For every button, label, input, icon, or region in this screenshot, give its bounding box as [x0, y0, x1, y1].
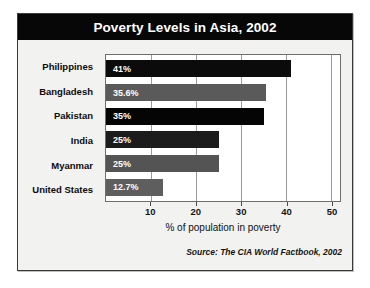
plot-area: 41%35.6%35%25%25%12.7% [105, 54, 341, 202]
bar-row: 12.7% [106, 175, 340, 199]
chart-card: Poverty Levels in Asia, 2002 Philippines… [17, 13, 353, 271]
category-label: Bangladesh [18, 79, 99, 104]
bar: 35% [106, 108, 264, 125]
bar: 25% [106, 155, 219, 172]
x-tick-label: 20 [190, 206, 201, 217]
chart-body: PhilippinesBangladeshPakistanIndiaMyanma… [18, 40, 354, 272]
bar-series: 41%35.6%35%25%25%12.7% [106, 55, 340, 201]
bar-value-label: 25% [106, 159, 131, 169]
bar: 35.6% [106, 84, 266, 101]
bar-value-label: 35.6% [106, 88, 139, 98]
x-axis: 1020304050 [105, 202, 341, 218]
x-axis-title: % of population in poverty [105, 222, 341, 233]
x-tick-label: 40 [281, 206, 292, 217]
source-note: Source: The CIA World Factbook, 2002 [186, 247, 342, 257]
bar-row: 25% [106, 128, 340, 152]
category-label: Myanmar [18, 153, 99, 178]
bar-row: 35% [106, 104, 340, 128]
chart-title-bar: Poverty Levels in Asia, 2002 [18, 14, 352, 40]
category-label: United States [18, 177, 99, 202]
bar-value-label: 41% [106, 64, 131, 74]
bar: 41% [106, 60, 291, 77]
category-label: India [18, 128, 99, 153]
category-axis-labels: PhilippinesBangladeshPakistanIndiaMyanma… [18, 54, 99, 202]
bar-row: 41% [106, 57, 340, 81]
x-tick-label: 10 [145, 206, 156, 217]
x-tick-label: 50 [327, 206, 338, 217]
bar-row: 35.6% [106, 81, 340, 105]
bar-row: 25% [106, 152, 340, 176]
bar-value-label: 12.7% [106, 182, 139, 192]
x-tick-label: 30 [236, 206, 247, 217]
bar-value-label: 35% [106, 111, 131, 121]
bar: 12.7% [106, 179, 163, 196]
bar: 25% [106, 131, 219, 148]
bar-value-label: 25% [106, 135, 131, 145]
category-label: Pakistan [18, 103, 99, 128]
category-label: Philippines [18, 54, 99, 79]
chart-title: Poverty Levels in Asia, 2002 [93, 20, 276, 35]
